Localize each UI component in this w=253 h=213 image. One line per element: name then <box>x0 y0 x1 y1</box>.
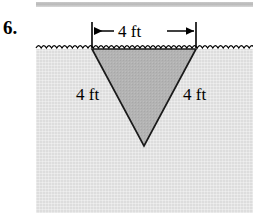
left-side-label: 4 ft <box>76 86 99 103</box>
top-dimension-label: 4 ft <box>118 23 141 40</box>
right-side-label: 4 ft <box>183 86 206 103</box>
figure-canvas: 6. 4 ft 4 ft 4 ft <box>0 0 253 213</box>
triangle-trough <box>92 49 196 146</box>
water-surface-line <box>36 46 253 49</box>
